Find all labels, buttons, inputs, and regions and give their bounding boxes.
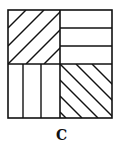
quadrant-top-left-diagonal	[8, 10, 98, 64]
quadrant-top-right-horizontal	[60, 28, 112, 46]
quadrant-bottom-left-vertical	[23, 64, 41, 118]
quadrant-bottom-right-diagonal	[60, 64, 123, 118]
figure-label: C	[0, 127, 123, 143]
